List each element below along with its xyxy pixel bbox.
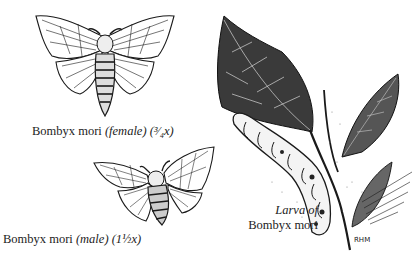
larva-caption: Larva of Bombyx mori [228, 203, 318, 233]
species-name: Bombyx mori [3, 232, 73, 246]
species-name: Bombyx mori [32, 124, 102, 138]
artist-signature: RHM [354, 236, 370, 244]
larva-caption-line1: Larva of [228, 203, 318, 218]
sex-qualifier: (female) [105, 124, 147, 138]
female-moth-illustration [30, 6, 180, 121]
larva-caption-line2: Bombyx mori [228, 218, 318, 233]
moth-icon [92, 145, 217, 230]
male-moth-illustration [92, 145, 217, 230]
scale-label: (³⁄₄x) [150, 124, 174, 138]
female-moth-caption: Bombyx mori (female) (³⁄₄x) [32, 124, 174, 139]
male-moth-caption: Bombyx mori (male) (1½x) [3, 232, 141, 247]
moth-icon [30, 6, 180, 121]
sex-qualifier: (male) [76, 232, 109, 246]
scale-label: (1½x) [112, 232, 142, 246]
